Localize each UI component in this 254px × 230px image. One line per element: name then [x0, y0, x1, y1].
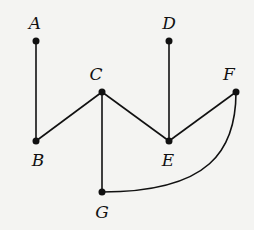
- node-f: [233, 89, 240, 96]
- edge-c-e: [102, 92, 169, 141]
- edge-e-f: [169, 92, 236, 141]
- graph-diagram: A B C D E F G: [0, 0, 254, 230]
- label-b: B: [31, 150, 45, 170]
- label-g: G: [95, 202, 109, 222]
- label-c: C: [89, 64, 102, 84]
- label-e: E: [161, 150, 175, 170]
- label-a: A: [27, 13, 41, 33]
- node-d: [166, 38, 173, 45]
- node-g: [99, 189, 106, 196]
- node-c: [99, 89, 106, 96]
- node-e: [166, 138, 173, 145]
- node-a: [33, 38, 40, 45]
- node-b: [33, 138, 40, 145]
- edges: [36, 41, 236, 192]
- label-d: D: [161, 13, 176, 33]
- edge-b-c: [36, 92, 102, 141]
- label-f: F: [222, 64, 236, 84]
